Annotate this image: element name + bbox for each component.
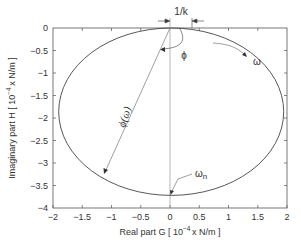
omega-label: ω [253, 56, 261, 67]
omega-n-label: ωn [195, 168, 207, 181]
y-tick-label: −1.5 [30, 91, 48, 101]
y-tick-label: −2 [38, 113, 48, 123]
y-tick-label: −4 [38, 203, 48, 213]
y-axis-label: Imaginary part H [ 10−4x N/m ] [5, 57, 17, 178]
x-tick-label: −1.5 [73, 212, 91, 222]
x-tick-labels: −2 −1.5 −1 −0.5 0 0.5 1 1.5 2 [48, 212, 290, 222]
x-axis-label: Real part G [ 10−4x N/m ] [120, 225, 221, 237]
y-tick-labels: 0 −0.5 −1 −1.5 −2 −2.5 −3 −3.5 −4 [30, 23, 48, 213]
x-tick-label: 1 [226, 212, 231, 222]
x-tick-label: 2 [284, 212, 289, 222]
nyquist-circle [59, 28, 284, 195]
y-tick-label: 0 [43, 23, 48, 33]
x-tick-label: −2 [48, 212, 58, 222]
omega-direction-arrow [213, 43, 245, 55]
inv-k-label: 1/k [174, 6, 188, 17]
phi-omega-label: ϕ(ω) [115, 105, 134, 129]
omega-n-arrowhead [170, 190, 174, 195]
y-tick-label: −3 [38, 158, 48, 168]
phi-omega-arrowhead [104, 168, 109, 174]
phi-label: ϕ [181, 50, 187, 61]
y-tick-label: −3.5 [30, 181, 48, 191]
y-tick-label: −0.5 [30, 46, 48, 56]
x-tick-label: −1 [106, 212, 116, 222]
omega-n-leader [171, 174, 192, 193]
x-tick-label: 0 [167, 212, 172, 222]
y-tick-label: −2.5 [30, 136, 48, 146]
inv-k-dimension [158, 18, 204, 28]
x-tick-label: 0.5 [193, 212, 206, 222]
x-tick-label: 1.5 [251, 212, 264, 222]
y-tick-label: −1 [38, 68, 48, 78]
x-tick-label: −0.5 [132, 212, 150, 222]
nyquist-plot: −2 −1.5 −1 −0.5 0 0.5 1 1.5 2 0 −0.5 −1 … [0, 0, 301, 247]
phi-omega-line [105, 28, 170, 172]
